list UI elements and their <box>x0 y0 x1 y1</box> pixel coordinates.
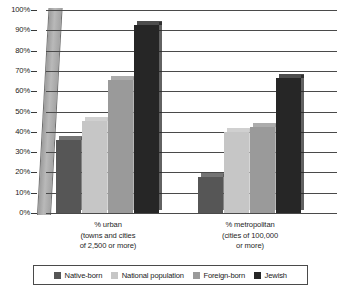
y-tick-label: 20% <box>0 168 30 176</box>
legend-swatch-icon <box>54 272 61 279</box>
y-tick-label: 30% <box>0 148 30 156</box>
y-tick-mark <box>31 172 37 173</box>
x-axis-category-label: % urban(towns and citiesof 2,500 or more… <box>48 220 168 252</box>
legend-label: Foreign-born <box>203 271 245 280</box>
y-tick-mark <box>31 193 37 194</box>
gridline <box>46 213 337 214</box>
y-tick-mark <box>31 152 37 153</box>
bar-side-3d <box>159 22 162 210</box>
bar <box>224 132 249 213</box>
y-tick-mark <box>31 112 37 113</box>
bar-group <box>198 10 302 213</box>
category-label-line: (towns and cities <box>48 231 168 242</box>
y-tick-label: 10% <box>0 189 30 197</box>
category-label-line: of 2,500 or more) <box>48 241 168 252</box>
y-tick-mark <box>31 51 37 52</box>
y-tick-label: 60% <box>0 87 30 95</box>
category-label-line: (cities of 100,000 <box>190 231 310 242</box>
legend-label: National population <box>122 271 184 280</box>
bar <box>82 121 107 213</box>
bar-face <box>224 132 249 213</box>
legend-swatch-icon <box>254 272 261 279</box>
bars-layer <box>46 10 337 213</box>
category-label-line: or more) <box>190 241 310 252</box>
y-tick-mark <box>31 213 37 214</box>
bar-group <box>56 10 160 213</box>
y-tick-label: 0% <box>0 209 30 217</box>
category-label-line: % metropolitan <box>190 220 310 231</box>
y-tick-label: 80% <box>0 47 30 55</box>
bar-face <box>276 78 301 213</box>
bar-face <box>108 80 133 213</box>
bar <box>56 140 81 213</box>
y-tick-label: 90% <box>0 26 30 34</box>
bar <box>276 78 301 213</box>
bar <box>198 177 223 213</box>
bar <box>108 80 133 213</box>
category-label-line: % urban <box>48 220 168 231</box>
y-tick-mark <box>31 71 37 72</box>
x-axis-category-labels: % urban(towns and citiesof 2,500 or more… <box>46 216 337 262</box>
chart-legend: Native-bornNational populationForeign-bo… <box>33 265 308 285</box>
y-tick-mark <box>31 30 37 31</box>
y-tick-label: 100% <box>0 6 30 14</box>
legend-label: Native-born <box>65 271 103 280</box>
bar-face <box>250 127 275 213</box>
bar <box>134 25 159 213</box>
legend-swatch-icon <box>111 272 118 279</box>
bar-face <box>134 25 159 213</box>
bar-face <box>198 177 223 213</box>
y-tick-label: 50% <box>0 108 30 116</box>
y-tick-label: 40% <box>0 128 30 136</box>
legend-item[interactable]: Foreign-born <box>193 271 245 280</box>
x-axis-category-label: % metropolitan(cities of 100,000or more) <box>190 220 310 252</box>
legend-swatch-icon <box>193 272 200 279</box>
bar-side-3d <box>301 75 304 210</box>
y-tick-mark <box>31 132 37 133</box>
y-axis: 100%90%80%70%60%50%40%30%20%10%0% <box>0 0 30 218</box>
bar <box>250 127 275 213</box>
bar-chart: 100%90%80%70%60%50%40%30%20%10%0% % urba… <box>0 0 337 296</box>
y-tick-mark <box>31 10 37 11</box>
legend-item[interactable]: Native-born <box>54 271 102 280</box>
bar-face <box>82 121 107 213</box>
bar-face <box>56 140 81 213</box>
plot-area: 100%90%80%70%60%50%40%30%20%10%0% <box>0 0 337 218</box>
legend-item[interactable]: Jewish <box>254 271 287 280</box>
legend-item[interactable]: National population <box>111 271 184 280</box>
y-tick-mark <box>31 91 37 92</box>
legend-label: Jewish <box>265 271 287 280</box>
y-tick-label: 70% <box>0 67 30 75</box>
